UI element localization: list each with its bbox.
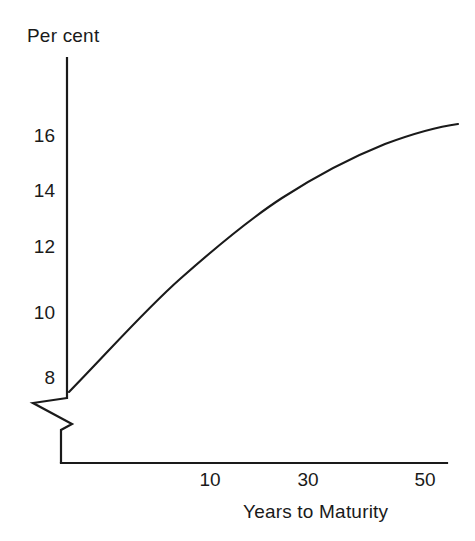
x-tick-label-30: 30 — [283, 470, 333, 489]
yield-curve-figure: Per cent 16 14 12 10 8 10 30 50 Years to… — [0, 0, 475, 541]
series-line-yield-curve — [69, 124, 458, 392]
y-tick-label-8: 8 — [15, 368, 55, 387]
y-axis-title: Per cent — [27, 26, 99, 45]
x-tick-label-10: 10 — [185, 470, 235, 489]
y-tick-label-14: 14 — [15, 181, 55, 200]
y-tick-label-10: 10 — [15, 303, 55, 322]
y-axis-scale-break-zigzag — [33, 398, 72, 463]
x-tick-label-50: 50 — [400, 470, 450, 489]
y-tick-label-12: 12 — [15, 237, 55, 256]
y-tick-label-16: 16 — [15, 126, 55, 145]
chart-plot-area — [0, 0, 475, 541]
x-axis-title: Years to Maturity — [243, 502, 388, 521]
